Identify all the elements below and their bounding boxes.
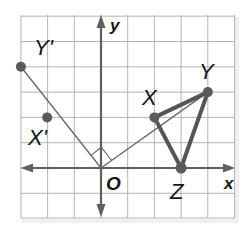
arrow-down-icon — [97, 204, 106, 217]
y-axis-label: y — [109, 16, 121, 35]
point-Y — [203, 87, 213, 97]
point-X — [149, 112, 159, 122]
label-Y: Y — [199, 59, 215, 84]
arrow-up-icon — [97, 15, 106, 28]
label-X: X — [141, 85, 158, 110]
point-X-prime — [42, 112, 52, 122]
x-axis-label: x — [223, 174, 235, 193]
coordinate-plane: Y' X' X Y Z y x O — [0, 0, 247, 229]
origin-label: O — [106, 173, 121, 194]
grid-shadow-right — [235, 17, 239, 221]
arrow-left-icon — [21, 164, 33, 173]
label-Y-prime: Y' — [34, 35, 54, 60]
label-Z: Z — [169, 179, 185, 204]
arrow-right-icon — [223, 164, 235, 173]
label-X-prime: X' — [27, 125, 48, 150]
grid — [21, 15, 235, 218]
point-Y-prime — [16, 62, 26, 72]
grid-shadow — [22, 219, 238, 223]
rotation-diagram: Y' X' X Y Z y x O — [0, 0, 247, 229]
y-axis — [97, 15, 106, 217]
point-Z — [176, 163, 187, 174]
